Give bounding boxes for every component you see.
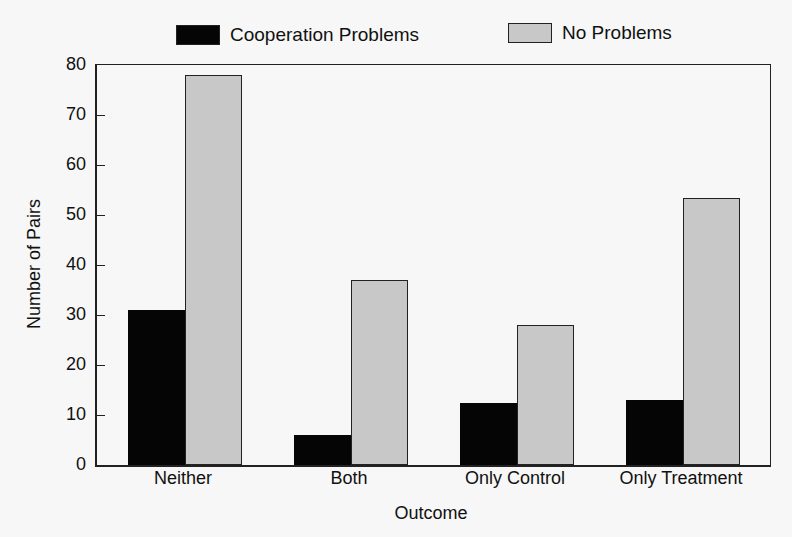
y-tick-label: 0 [76,454,86,475]
y-tick [97,115,105,116]
legend-item-cooperation-problems: Cooperation Problems [176,24,419,46]
plot-area [95,64,771,467]
y-tick-label: 40 [66,254,86,275]
x-tick-label: Both [330,468,367,489]
x-tick-label: Only Treatment [619,468,742,489]
legend-label: No Problems [562,22,672,44]
bar-neither-no-problems [185,75,242,465]
y-tick [97,415,105,416]
y-tick-label: 80 [66,54,86,75]
y-tick-label: 10 [66,404,86,425]
legend-swatch-gray [508,23,552,43]
y-tick-label: 30 [66,304,86,325]
bar-only-treatment-cooperation-problems [626,400,683,465]
bar-both-no-problems [351,280,408,465]
legend-item-no-problems: No Problems [508,22,672,44]
y-tick-label: 60 [66,154,86,175]
legend-swatch-black [176,25,220,45]
x-tick-label: Only Control [465,468,565,489]
bar-neither-cooperation-problems [128,310,185,465]
y-tick-label: 50 [66,204,86,225]
x-tick-label: Neither [154,468,212,489]
y-tick [97,265,105,266]
y-tick-label: 70 [66,104,86,125]
bar-only-control-no-problems [517,325,574,465]
bar-both-cooperation-problems [294,435,351,465]
bar-only-treatment-no-problems [683,198,740,466]
y-tick [97,365,105,366]
y-tick [97,215,105,216]
y-tick-label: 20 [66,354,86,375]
legend-label: Cooperation Problems [230,24,419,46]
y-tick [97,315,105,316]
x-axis-title: Outcome [394,503,467,524]
bar-only-control-cooperation-problems [460,403,517,466]
y-axis-title: Number of Pairs [24,199,45,329]
y-tick [97,165,105,166]
